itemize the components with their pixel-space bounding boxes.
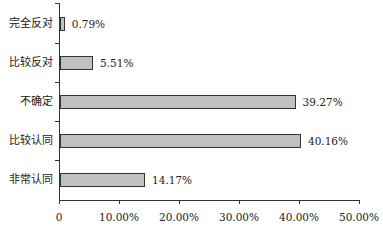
bar	[60, 95, 296, 109]
category-label: 比较认同	[0, 134, 53, 148]
y-tick	[55, 3, 59, 4]
x-tick-label: 20.00%	[159, 211, 199, 223]
category-label: 不确定	[0, 95, 53, 109]
x-tick	[119, 200, 120, 204]
x-axis	[59, 200, 359, 201]
bar	[60, 56, 93, 70]
y-tick	[55, 82, 59, 83]
bar-chart: 完全反对 比较反对 不确定 比较认同 非常认同 0.79% 5.51% 39.2…	[0, 0, 383, 231]
x-tick	[59, 200, 60, 204]
x-tick	[359, 200, 360, 204]
category-label: 非常认同	[0, 173, 53, 187]
x-tick	[299, 200, 300, 204]
y-tick	[55, 160, 59, 161]
x-tick-label: 40.00%	[279, 211, 319, 223]
category-label: 完全反对	[0, 17, 53, 31]
value-label: 5.51%	[100, 56, 133, 70]
y-tick	[55, 43, 59, 44]
y-tick	[55, 121, 59, 122]
value-label: 14.17%	[152, 173, 192, 187]
bar	[60, 173, 145, 187]
x-tick-label: 0	[56, 211, 63, 223]
x-tick	[239, 200, 240, 204]
x-tick-label: 30.00%	[219, 211, 259, 223]
bar	[60, 17, 65, 31]
category-label: 比较反对	[0, 56, 53, 70]
value-label: 40.16%	[308, 134, 348, 148]
value-label: 0.79%	[72, 17, 105, 31]
x-tick	[179, 200, 180, 204]
value-label: 39.27%	[303, 95, 343, 109]
x-tick-label: 10.00%	[99, 211, 139, 223]
x-tick-label: 50.00%	[339, 211, 379, 223]
bar	[60, 134, 301, 148]
